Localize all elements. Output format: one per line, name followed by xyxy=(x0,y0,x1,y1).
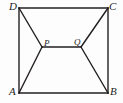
vertex-label-a: A xyxy=(9,86,16,97)
inscribed-trapezoid xyxy=(19,8,108,93)
vertex-label-d: D xyxy=(9,1,17,12)
segment-cq xyxy=(81,8,108,47)
figure-canvas xyxy=(0,0,123,103)
segment-ap xyxy=(19,47,42,93)
segment-bq xyxy=(81,47,108,93)
point-label-q: Q xyxy=(74,38,81,47)
vertex-label-b: B xyxy=(110,86,117,97)
point-label-p: P xyxy=(44,39,50,48)
vertex-label-c: C xyxy=(109,1,116,12)
square-abcd xyxy=(19,8,108,93)
segment-dp xyxy=(19,8,42,47)
geometry-figure: D C A B P Q xyxy=(0,0,123,103)
